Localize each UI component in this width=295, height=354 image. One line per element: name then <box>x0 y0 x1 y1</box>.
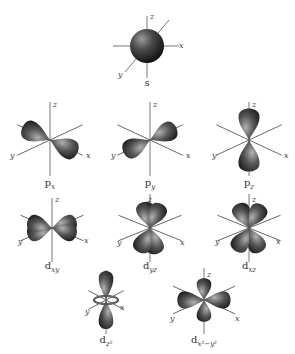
orbital-py <box>117 102 182 176</box>
axis-x-s: x <box>179 41 184 50</box>
axis-x-dz2: x <box>120 303 125 312</box>
orbital-px <box>17 102 82 176</box>
axis-z-py: z <box>153 100 157 109</box>
axis-z-s: z <box>150 12 154 21</box>
orbital-dxy <box>20 198 83 262</box>
axis-z-pz: z <box>252 100 256 109</box>
axis-z-dx2y2: z <box>207 270 211 279</box>
axis-y-dz2: y <box>85 307 90 316</box>
label-py: py <box>145 177 155 191</box>
orbital-pz <box>216 102 281 176</box>
axis-x-dx2y2: x <box>235 314 240 323</box>
label-s: s <box>144 77 149 88</box>
axis-x-px: x <box>86 151 91 160</box>
orbital-dxz <box>217 194 280 262</box>
axis-y-s: y <box>118 70 123 79</box>
axis-z-dyz: z <box>148 195 152 204</box>
orbital-dyz <box>118 194 181 262</box>
axis-x-dxy: x <box>84 236 89 245</box>
axis-x-pz: x <box>284 151 289 160</box>
label-pz: pz <box>244 177 254 191</box>
axis-z-dz2: z <box>108 270 112 279</box>
axis-z-px: z <box>53 100 57 109</box>
label-dyz: dyz <box>143 260 157 274</box>
axis-y-pz: y <box>212 151 217 160</box>
axis-x-dyz: x <box>180 238 185 247</box>
axis-y-py: y <box>111 151 116 160</box>
axis-z-dxz: z <box>252 195 256 204</box>
axis-y-px: y <box>10 151 15 160</box>
label-dxz: dxz <box>242 260 256 274</box>
axis-y-dxz: y <box>215 237 220 246</box>
axis-z-dxy: z <box>55 195 59 204</box>
axis-y-dyz: y <box>117 238 122 247</box>
axis-y-dxy: y <box>18 237 23 246</box>
orbital-dz2 <box>88 270 123 334</box>
label-dxy: dxy <box>45 260 59 274</box>
label-dz2: dz² <box>100 334 113 348</box>
orbital-s <box>113 16 179 78</box>
axis-y-dx2y2: y <box>170 314 175 323</box>
orbital-dx2-y2 <box>173 268 235 334</box>
label-dx2y2: dx²−y² <box>191 334 217 348</box>
axis-x-py: x <box>186 151 191 160</box>
label-px: px <box>45 177 55 191</box>
axis-x-dxz: x <box>276 237 281 246</box>
